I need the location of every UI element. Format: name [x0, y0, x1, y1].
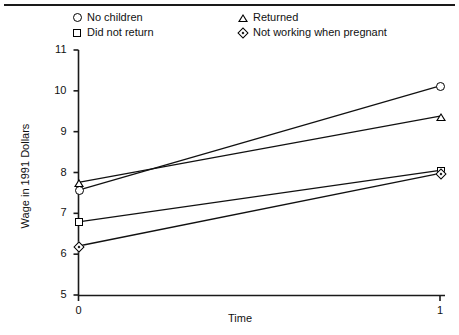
- x-axis-title: Time: [180, 312, 300, 324]
- y-tick-label: 11: [45, 43, 67, 55]
- y-tick-label: 6: [45, 247, 67, 259]
- y-tick-label: 7: [45, 206, 67, 218]
- triangle-marker-icon: [79, 182, 80, 183]
- y-tick-label: 5: [45, 288, 67, 300]
- y-tick-label: 8: [45, 166, 67, 178]
- diamond-marker-icon: [79, 246, 80, 247]
- circle-marker-icon: [79, 190, 80, 191]
- diamond-marker-icon: [440, 173, 441, 174]
- x-tick-label: 0: [69, 304, 89, 316]
- y-tick-label: 9: [45, 125, 67, 137]
- plot-area: 567891011 01 Wage in 1991 Dollars Time: [0, 0, 459, 335]
- plot-canvas: [0, 0, 459, 335]
- chart-page: No children Did not return Returned Not …: [0, 0, 459, 335]
- triangle-marker-icon: [440, 116, 441, 117]
- series-line: [79, 116, 441, 182]
- square-marker-icon: [79, 222, 80, 223]
- circle-marker-icon: [440, 86, 441, 87]
- series-line: [79, 170, 441, 221]
- x-tick-label: 1: [430, 304, 450, 316]
- y-tick-label: 10: [45, 84, 67, 96]
- y-axis-title: Wage in 1991 Dollars: [19, 106, 31, 246]
- series-line: [79, 86, 441, 190]
- series-lines: [79, 86, 441, 246]
- series-line: [79, 173, 441, 246]
